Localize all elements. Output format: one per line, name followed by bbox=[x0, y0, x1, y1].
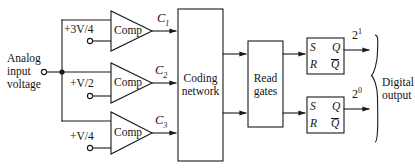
digital-output-label: Digital output bbox=[382, 76, 414, 102]
comp2-output-label: C2 bbox=[155, 63, 167, 80]
comparator-2-label: Comp bbox=[114, 76, 142, 89]
vref-label-2: +V/2 bbox=[70, 77, 94, 90]
vref3-terminal bbox=[87, 145, 92, 150]
flipflop-lsb-q-label: Q bbox=[332, 100, 340, 113]
vref1-terminal bbox=[87, 38, 92, 43]
flipflop-msb-r-label: R bbox=[310, 58, 317, 71]
flipflop-lsb-s-label: S bbox=[310, 100, 316, 113]
output-weight-msb-label: 21 bbox=[352, 28, 362, 42]
vref-label-3: +V/4 bbox=[70, 130, 94, 143]
flipflop-msb-q-label: Q bbox=[332, 41, 340, 54]
coding-network-label: Coding network bbox=[180, 72, 221, 98]
flipflop-msb-qbar-label: Q bbox=[331, 58, 339, 71]
comp3-output-label: C3 bbox=[155, 113, 167, 130]
flipflop-lsb-qbar-label: Q bbox=[331, 117, 339, 130]
analog-input-terminal bbox=[41, 69, 46, 74]
comparator-1-label: Comp bbox=[114, 24, 142, 37]
flipflop-lsb-r-label: R bbox=[310, 117, 317, 130]
digital-output-brace bbox=[372, 35, 378, 142]
vref2-terminal bbox=[87, 93, 92, 98]
flipflop-msb-s-label: S bbox=[310, 41, 316, 54]
adc-block-diagram: Analog input voltage +3V/4 +V/2 +V/4 Com… bbox=[0, 0, 415, 168]
output-weight-lsb-label: 20 bbox=[352, 87, 362, 101]
analog-input-label: Analog input voltage bbox=[7, 52, 41, 91]
comp1-output-label: C1 bbox=[157, 11, 169, 28]
comparator-3-label: Comp bbox=[114, 126, 142, 139]
read-gates-label: Read gates bbox=[249, 72, 282, 98]
vref-label-1: +3V/4 bbox=[64, 23, 94, 36]
